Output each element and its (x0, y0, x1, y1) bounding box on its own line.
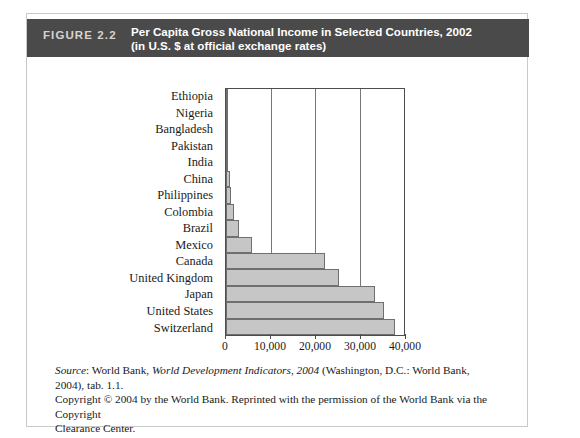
figure-number-label: FIGURE 2.2 (27, 19, 131, 41)
bar-row (226, 138, 404, 154)
bar-row (226, 105, 404, 121)
figure-title-line2: (in U.S. $ at official exchange rates) (131, 39, 472, 53)
category-label: India (27, 154, 219, 171)
bar (226, 171, 230, 187)
axis-tick-label: 0 (222, 340, 228, 353)
bar-row (226, 187, 404, 203)
source-publication-title: World Development Indicators, 2004 (152, 364, 319, 376)
category-label: Ethiopia (27, 88, 219, 105)
bar-row (226, 122, 404, 138)
category-label: Pakistan (27, 138, 219, 155)
bar-row (226, 89, 404, 105)
category-label: Nigeria (27, 105, 219, 122)
figure-title: Per Capita Gross National Income in Sele… (131, 19, 472, 53)
category-label: China (27, 171, 219, 188)
bar (226, 155, 228, 171)
bar-row (226, 155, 404, 171)
chart-plot-area (225, 88, 405, 336)
category-label: United States (27, 303, 219, 320)
axis-tick-label: 10,000 (254, 340, 286, 353)
category-label: Bangladesh (27, 121, 219, 138)
bar (226, 187, 231, 203)
category-label: Mexico (27, 237, 219, 254)
figure-frame: FIGURE 2.2 Per Capita Gross National Inc… (26, 13, 528, 427)
source-line1-a: : World Bank, (86, 364, 152, 376)
bar-row (226, 171, 404, 187)
source-prefix: Source (55, 364, 86, 376)
axis-tick-mark (405, 334, 406, 339)
chart-value-axis: 010,00020,00030,00040,000 (225, 340, 405, 360)
bar (226, 122, 228, 138)
bar (226, 319, 395, 335)
bar-row (226, 319, 404, 335)
bar (226, 220, 239, 236)
bar-row (226, 253, 404, 269)
category-label: Japan (27, 286, 219, 303)
axis-tick-mark (315, 334, 316, 339)
bar (226, 253, 325, 269)
source-note-line2: Copyright © 2004 by the World Bank. Repr… (55, 392, 499, 421)
bar (226, 105, 228, 121)
category-label: Switzerland (27, 319, 219, 336)
axis-tick-mark (225, 334, 226, 339)
axis-tick-label: 30,000 (344, 340, 376, 353)
category-label: Canada (27, 253, 219, 270)
axis-tick-mark (270, 334, 271, 339)
chart-bars (226, 89, 404, 335)
axis-tick-label: 40,000 (389, 340, 421, 353)
category-label: Brazil (27, 220, 219, 237)
bar (226, 302, 384, 318)
bar (226, 204, 234, 220)
figure-header-band: FIGURE 2.2 Per Capita Gross National Inc… (27, 19, 529, 57)
chart-category-axis: EthiopiaNigeriaBangladeshPakistanIndiaCh… (27, 88, 219, 336)
bar (226, 89, 228, 105)
chart-region: EthiopiaNigeriaBangladeshPakistanIndiaCh… (27, 60, 529, 360)
bar (226, 237, 252, 253)
figure-title-line1: Per Capita Gross National Income in Sele… (131, 25, 472, 39)
axis-tick-label: 20,000 (299, 340, 331, 353)
bar (226, 286, 375, 302)
bar-row (226, 237, 404, 253)
bar-row (226, 286, 404, 302)
bar (226, 138, 228, 154)
bar (226, 269, 339, 285)
bar-row (226, 269, 404, 285)
category-label: United Kingdom (27, 270, 219, 287)
bar-row (226, 204, 404, 220)
source-note-line3: Clearance Center. (55, 421, 499, 436)
axis-tick-mark (360, 334, 361, 339)
category-label: Philippines (27, 187, 219, 204)
category-label: Colombia (27, 204, 219, 221)
bar-row (226, 302, 404, 318)
source-note: Source: World Bank, World Development In… (55, 363, 499, 436)
source-note-line1: Source: World Bank, World Development In… (55, 363, 499, 392)
bar-row (226, 220, 404, 236)
